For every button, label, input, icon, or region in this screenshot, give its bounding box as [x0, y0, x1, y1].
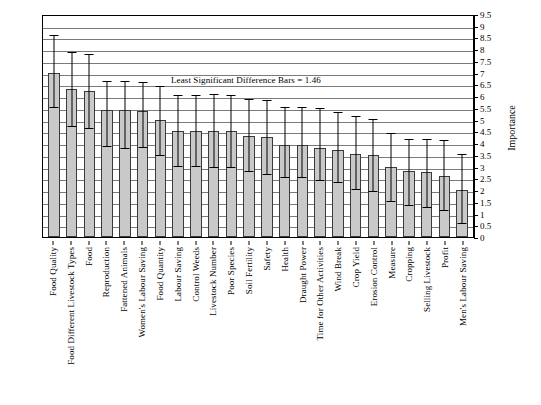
x-axis-tick-label: Erosion Control — [369, 247, 379, 306]
y-axis-tick — [474, 203, 478, 204]
y-axis-tick-label: 3.5 — [480, 151, 491, 160]
x-axis-slot: Health — [276, 241, 294, 401]
bar-slot — [134, 16, 152, 237]
y-axis-title: Importance — [506, 105, 517, 151]
error-bar-cap-upper — [422, 139, 431, 140]
error-bar-line — [195, 96, 196, 166]
error-bar-cap-upper — [138, 82, 147, 83]
x-axis-slot: Women's Labour Saving — [133, 241, 151, 401]
x-axis-slot: Selling Livestock — [418, 241, 436, 401]
x-axis-tick-label: Women's Labour Saving — [137, 247, 147, 337]
lsd-annotation: Least Significant Difference Bars = 1.46 — [171, 75, 321, 85]
bar-slot — [329, 16, 347, 237]
error-bar-cap-lower — [227, 167, 236, 168]
error-bar-cap-upper — [67, 52, 76, 53]
x-axis-tick — [409, 241, 410, 245]
x-axis-tick-label: Control Weeds — [191, 247, 201, 302]
x-axis-tick — [124, 241, 125, 245]
error-bar-line — [231, 96, 232, 168]
bar-slot — [63, 16, 81, 237]
y-axis-tick — [474, 97, 478, 98]
error-bar-cap-lower — [191, 166, 200, 167]
bar-slot — [418, 16, 436, 237]
x-axis-slot: Crop Yield — [347, 241, 365, 401]
y-axis-tick — [474, 38, 478, 39]
error-bar-line — [249, 100, 250, 173]
x-axis-slot: Men's Labour Saving — [454, 241, 472, 401]
y-axis-tick-label: 1.5 — [480, 198, 491, 207]
x-axis-tick-label: Reproduction — [101, 247, 111, 297]
error-bar-cap-upper — [458, 154, 467, 155]
x-axis-tick-label: Livestock Number — [208, 247, 218, 316]
x-axis-slot: Food — [80, 241, 98, 401]
error-bar-cap-lower — [156, 155, 165, 156]
error-bar-cap-upper — [191, 95, 200, 96]
error-bar-cap-lower — [351, 189, 360, 190]
error-bar-cap-upper — [316, 108, 325, 109]
error-bar-line — [302, 108, 303, 178]
y-axis-tick — [474, 215, 478, 216]
error-bar-line — [462, 155, 463, 224]
error-bar-line — [178, 96, 179, 166]
x-axis-tick-label: Fattened Animals — [119, 247, 129, 312]
y-axis-tick-label: 2 — [480, 187, 485, 196]
error-bar-cap-lower — [120, 148, 129, 149]
x-axis-tick-label: Crop Yield — [351, 247, 361, 287]
x-axis-tick — [338, 241, 339, 245]
error-bar-cap-upper — [369, 119, 378, 120]
x-axis-tick — [106, 241, 107, 245]
error-bar-cap-lower — [333, 182, 342, 183]
x-axis-tick-label: Labour Saving — [173, 247, 183, 302]
error-bar-cap-lower — [404, 205, 413, 206]
y-axis-tick-label: 4 — [480, 140, 485, 149]
x-axis-tick-label: Safety — [262, 247, 272, 271]
x-axis-tick — [355, 241, 356, 245]
y-axis-ticks — [474, 15, 478, 238]
x-axis-tick — [284, 241, 285, 245]
error-bar-cap-lower — [85, 128, 94, 129]
error-bar-line — [337, 113, 338, 183]
x-axis-slot: Control Weeds — [187, 241, 205, 401]
bar-slot — [276, 16, 294, 237]
y-axis-tick-label: 0.5 — [480, 222, 491, 231]
y-axis-tick-label: 4.5 — [480, 128, 491, 137]
error-bar-cap-lower — [458, 223, 467, 224]
x-axis-slot: Livestock Number — [204, 241, 222, 401]
x-axis-tick-label: Time for Other Activities — [315, 247, 325, 340]
bar-slot — [187, 16, 205, 237]
error-bar-cap-lower — [316, 180, 325, 181]
y-axis-tick-label: 8 — [480, 46, 485, 55]
x-axis-slot: Profit — [436, 241, 454, 401]
error-bar-cap-lower — [209, 167, 218, 168]
y-axis-tick-label: 1 — [480, 210, 485, 219]
error-bar-line — [89, 55, 90, 129]
bar-slot — [116, 16, 134, 237]
x-axis-tick — [159, 241, 160, 245]
y-axis-tick-label: 7.5 — [480, 57, 491, 66]
x-axis-tick-label: Soil Fertility — [244, 247, 254, 294]
error-bar-line — [124, 82, 125, 149]
bar-slot — [152, 16, 170, 237]
x-axis-slot: Fattened Animals — [115, 241, 133, 401]
bar-slot — [436, 16, 454, 237]
x-axis-tick-label: Wind Break — [333, 247, 343, 291]
error-bar-cap-lower — [262, 174, 271, 175]
error-bar-cap-upper — [245, 99, 254, 100]
error-bar-line — [408, 140, 409, 207]
x-axis-tick — [266, 241, 267, 245]
x-axis-slot: Food Quantity — [151, 241, 169, 401]
x-axis-tick-label: Food — [84, 247, 94, 266]
error-bar-line — [107, 82, 108, 147]
bar-slot — [45, 16, 63, 237]
y-axis-tick-label: 9.5 — [480, 11, 491, 20]
x-axis-slot: Time for Other Activities — [311, 241, 329, 401]
error-bar-line — [391, 134, 392, 202]
bar-chart-figure: Least Significant Difference Bars = 1.46… — [0, 0, 541, 405]
error-bar-line — [266, 101, 267, 175]
y-axis-tick — [474, 109, 478, 110]
error-bar-line — [355, 117, 356, 190]
bar-slot — [311, 16, 329, 237]
x-axis-slot: Soil Fertility — [240, 241, 258, 401]
error-bar-cap-upper — [85, 54, 94, 55]
x-axis-tick — [213, 241, 214, 245]
